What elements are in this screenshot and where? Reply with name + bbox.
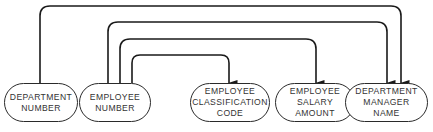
node-label-line: DEPARTMENT	[355, 86, 417, 97]
node-label-line: NUMBER	[21, 103, 61, 114]
node-employee-number: EMPLOYEE NUMBER	[79, 83, 151, 122]
edge-emp-number-to-dept-manager-name	[108, 22, 387, 83]
node-department-manager-name: DEPARTMENT MANAGER NAME	[345, 83, 428, 122]
node-label-line: CLASSIFICATION	[192, 97, 268, 108]
node-label-line: SALARY	[297, 97, 333, 108]
node-employee-salary-amount: EMPLOYEE SALARY AMOUNT	[275, 83, 355, 122]
edge-emp-number-to-classification-code	[132, 55, 229, 83]
node-label-line: NAME	[373, 108, 399, 119]
node-employee-classification-code: EMPLOYEE CLASSIFICATION CODE	[190, 83, 270, 122]
node-label-line: EMPLOYEE	[290, 86, 340, 97]
dependency-diagram: DEPARTMENT NUMBER EMPLOYEE NUMBER EMPLOY…	[0, 0, 433, 132]
node-department-number: DEPARTMENT NUMBER	[4, 83, 78, 122]
edge-emp-number-to-salary-amount	[120, 39, 316, 83]
node-label-line: NUMBER	[95, 103, 135, 114]
node-label-line: CODE	[217, 108, 243, 119]
edge-dept-number-to-dept-manager-name	[40, 6, 401, 83]
node-label-line: MANAGER	[363, 97, 409, 108]
node-label-line: DEPARTMENT	[10, 92, 72, 103]
node-label-line: EMPLOYEE	[205, 86, 255, 97]
node-label-line: AMOUNT	[295, 108, 335, 119]
node-label-line: EMPLOYEE	[90, 92, 140, 103]
